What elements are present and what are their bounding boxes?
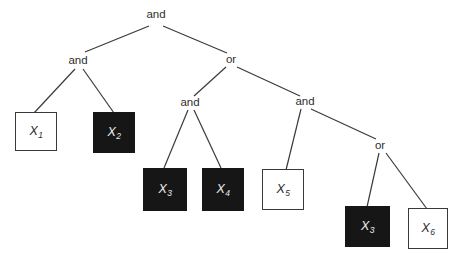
leaf-variable-name: X — [361, 219, 369, 233]
leaf-box-x2: X2 — [93, 112, 135, 153]
tree-edges — [0, 0, 462, 261]
leaf-box-x4: X4 — [202, 168, 244, 211]
leaf-label-x1: X1 — [29, 125, 42, 138]
gate-label-right-and: and — [295, 96, 314, 108]
edge-or-1-to-right-and — [237, 67, 300, 96]
leaf-variable-name: X — [107, 125, 115, 139]
edge-mid-and-to-x4 — [194, 110, 221, 168]
edge-root-and-to-left-and — [85, 26, 149, 52]
leaf-label-x3a: X3 — [158, 183, 171, 196]
leaf-label-x2: X2 — [107, 126, 120, 139]
leaf-variable-subscript: 3 — [167, 188, 172, 198]
leaf-variable-name: X — [29, 124, 37, 138]
leaf-label-x6: X6 — [421, 222, 434, 235]
leaf-box-x3b: X3 — [345, 206, 390, 247]
edge-mid-and-to-x3a — [164, 110, 188, 168]
gate-label-root-and: and — [146, 9, 165, 21]
leaf-box-x6: X6 — [408, 208, 448, 249]
leaf-variable-subscript: 2 — [116, 131, 121, 141]
leaf-variable-subscript: 6 — [430, 227, 435, 237]
gate-label-or-1: or — [226, 54, 236, 66]
leaf-box-x3a: X3 — [143, 168, 187, 211]
edge-left-and-to-x2 — [83, 69, 114, 113]
edge-right-and-to-or-2 — [311, 109, 376, 139]
leaf-label-x3b: X3 — [361, 220, 374, 233]
leaf-variable-name: X — [276, 182, 284, 196]
gate-label-left-and: and — [68, 55, 87, 67]
edge-or-2-to-x3b — [367, 153, 379, 207]
gate-label-or-2: or — [375, 140, 385, 152]
leaf-variable-subscript: 3 — [370, 225, 375, 235]
edge-left-and-to-x1 — [34, 69, 75, 113]
and-or-tree-diagram: andandorandandorX1X2X3X4X5X3X6 — [0, 0, 462, 261]
edge-or-1-to-mid-and — [194, 67, 226, 96]
edge-right-and-to-x5 — [286, 109, 301, 170]
leaf-label-x4: X4 — [216, 183, 229, 196]
edge-or-2-to-x6 — [386, 153, 427, 209]
leaf-variable-name: X — [421, 221, 429, 235]
leaf-variable-subscript: 1 — [38, 130, 43, 140]
edge-root-and-to-or-1 — [163, 26, 227, 53]
leaf-box-x5: X5 — [262, 169, 304, 210]
leaf-variable-name: X — [216, 182, 224, 196]
leaf-variable-subscript: 5 — [285, 188, 290, 198]
leaf-variable-name: X — [158, 182, 166, 196]
leaf-variable-subscript: 4 — [225, 188, 230, 198]
leaf-label-x5: X5 — [276, 183, 289, 196]
leaf-box-x1: X1 — [15, 112, 57, 151]
gate-label-mid-and: and — [180, 97, 199, 109]
